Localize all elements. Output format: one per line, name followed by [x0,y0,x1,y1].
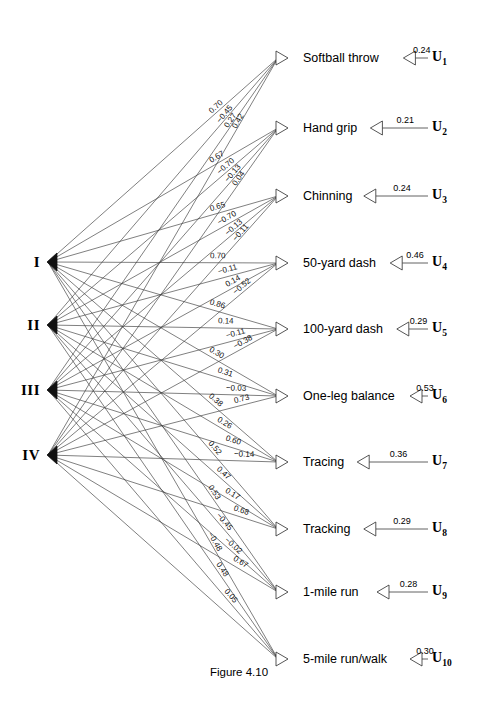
residual-coefficient-v2: 0.21 [396,115,414,125]
residual-label-v9: U9 [432,583,447,601]
loading-label-v7-f4: −0.14 [234,449,255,459]
factor-name: III [21,382,40,398]
variable-label-v7: Tracing [303,455,344,469]
factor-name: II [27,317,40,333]
residual-index: 8 [442,528,447,538]
coefficient-value: 0.21 [396,115,414,125]
variable-label-v8: Tracking [303,522,350,536]
variable-name: Tracking [303,522,350,536]
loading-label-v5-f2: 0.14 [218,316,234,325]
residual-index: 3 [442,195,447,205]
coefficient-value: 0.24 [413,45,431,55]
variable-label-v9: 1-mile run [303,585,359,599]
coefficient-value: 0.29 [410,316,428,326]
loading-value: −0.03 [226,383,246,393]
path-diagram-canvas: IIIIIIIVSoftball throwU10.24Hand gripU20… [0,0,478,721]
coefficient-value: 0.30 [416,646,434,656]
residual-label-v3: U3 [432,187,447,205]
residual-coefficient-v9: 0.28 [400,579,418,589]
factor-label-ii: II [27,317,40,334]
variable-name: Tracing [303,455,344,469]
loading-label-v6-f3: −0.03 [226,383,246,393]
variable-name: Hand grip [303,121,357,135]
variable-label-v5: 100-yard dash [303,322,383,336]
residual-index: 6 [442,395,447,405]
residual-coefficient-v5: 0.29 [410,316,428,326]
variable-label-v2: Hand grip [303,121,357,135]
residual-label-v6: U6 [432,387,447,405]
figure-caption: Figure 4.10 [0,666,478,678]
residual-label-v2: U2 [432,119,447,137]
residual-coefficient-v10: 0.30 [416,646,434,656]
variable-name: Softball throw [303,51,379,65]
variable-label-v1: Softball throw [303,51,379,65]
variable-name: One-leg balance [303,389,395,403]
residual-coefficient-v3: 0.24 [393,183,411,193]
residual-label-v8: U8 [432,520,447,538]
loading-label-v4-f1: 0.70 [210,251,226,260]
coefficient-value: 0.36 [390,449,408,459]
residual-label-v4: U4 [432,254,447,272]
variable-name: 1-mile run [303,585,359,599]
residual-label-v5: U5 [432,320,447,338]
factor-label-iv: IV [22,447,40,464]
residual-coefficient-v6: 0.53 [416,383,434,393]
coefficient-value: 0.28 [400,579,418,589]
coefficient-value: 0.29 [393,516,411,526]
coefficient-value: 0.24 [393,183,411,193]
residual-index: 1 [442,57,447,67]
residual-index: 7 [442,461,447,471]
residual-coefficient-v4: 0.46 [406,250,424,260]
factor-label-iii: III [21,382,40,399]
residual-label-v1: U1 [432,49,447,67]
factor-name: I [34,254,40,270]
variable-label-v10: 5-mile run/walk [303,652,387,666]
residual-label-v7: U7 [432,453,447,471]
variable-name: 100-yard dash [303,322,383,336]
variable-label-v3: Chinning [303,189,352,203]
variable-name: 5-mile run/walk [303,652,387,666]
loading-value: 0.14 [218,316,234,325]
variable-label-v4: 50-yard dash [303,256,376,270]
residual-index: 5 [442,328,447,338]
residual-index: 4 [442,262,447,272]
residual-coefficient-v8: 0.29 [393,516,411,526]
residual-coefficient-v1: 0.24 [413,45,431,55]
diagram-lines [0,0,478,721]
coefficient-value: 0.53 [416,383,434,393]
loading-value: 0.70 [210,251,226,260]
variable-name: Chinning [303,189,352,203]
variable-label-v6: One-leg balance [303,389,395,403]
residual-coefficient-v7: 0.36 [390,449,408,459]
factor-name: IV [22,447,40,463]
coefficient-value: 0.46 [406,250,424,260]
factor-label-i: I [34,254,40,271]
variable-name: 50-yard dash [303,256,376,270]
loading-value: −0.14 [234,449,255,459]
residual-index: 9 [442,591,447,601]
residual-index: 2 [442,127,447,137]
